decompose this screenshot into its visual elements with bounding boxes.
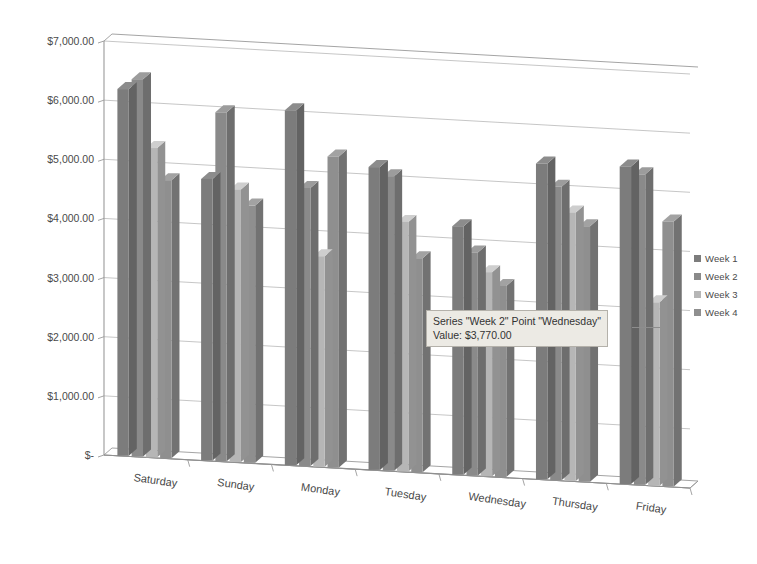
x-axis-label: Monday [300,481,341,498]
y-axis-label: $3,000.00 [47,272,94,284]
legend-swatch-week-1 [694,255,701,262]
chart-legend: Week 1 Week 2 Week 3 Week 4 [694,250,756,322]
bar-side-face [296,103,304,465]
y-axis-label: $5,000.00 [47,153,94,165]
chart-container: $-$1,000.00$2,000.00$3,000.00$4,000.00$5… [0,0,757,564]
bar-side-face [674,214,682,486]
bar-side-face [129,82,137,456]
legend-swatch-week-4 [694,309,701,316]
x-axis-tick [606,483,608,490]
legend-label-week-4: Week 4 [705,307,738,318]
x-axis-tick [523,479,525,486]
bar-friday-week-1[interactable] [620,159,639,484]
bar-side-face [157,141,165,457]
legend-label-week-1: Week 1 [705,253,738,264]
x-axis-label: Tuesday [384,485,428,503]
legend-label-week-2: Week 2 [705,271,738,282]
bar-side-face [660,295,668,485]
legend-item[interactable]: Week 2 [694,268,756,284]
bar-side-face [339,149,347,467]
bar-sunday-week-1[interactable] [201,172,220,461]
bar-side-face [631,159,639,484]
bar-side-face [394,169,402,471]
y-axis-tick [98,41,104,43]
bar-front-face [452,226,463,474]
y-axis-label: $2,000.00 [47,331,94,343]
y-axis-tick [98,396,104,398]
bar-side-face [590,219,598,481]
y-axis-label: $6,000.00 [47,94,94,106]
bar-front-face [369,167,380,470]
bar-front-face [117,89,128,456]
bar-side-face [408,215,416,472]
bar-tuesday-week-1[interactable] [369,160,388,470]
y-axis-tick [98,218,104,220]
x-axis-tick [271,464,273,471]
y-axis-tick [98,100,104,102]
bar-side-face [255,199,263,463]
bar-side-face [380,160,388,470]
wall-depth-edge [104,34,112,41]
y-axis-label: $7,000.00 [47,35,94,47]
bar-side-face [241,182,249,462]
y-axis-tick [98,337,104,339]
bar-front-face [285,110,296,465]
x-axis-label: Saturday [133,471,179,489]
bar-side-face [143,72,151,456]
x-axis-label: Thursday [551,495,599,513]
y-axis-label: $1,000.00 [47,390,94,402]
legend-item[interactable]: Week 4 [694,304,756,320]
x-axis-tick [355,469,357,476]
x-axis-label: Sunday [217,476,256,493]
bar-side-face [506,279,514,477]
bar-front-face [620,166,631,484]
y-axis-tick [98,159,104,161]
x-axis-label: Friday [635,499,667,515]
x-axis-tick [188,460,190,467]
legend-item[interactable]: Week 3 [694,286,756,302]
x-axis-tick [439,474,441,481]
datapoint-tooltip: Series "Week 2" Point "Wednesday" Value:… [426,310,608,347]
legend-swatch-week-2 [694,273,701,280]
bar-front-face [201,179,212,461]
bar-side-face [212,172,220,461]
bar-side-face [227,105,235,461]
gridline [104,41,690,74]
legend-item[interactable]: Week 1 [694,250,756,266]
x-axis-tick [690,488,692,495]
tooltip-leader-line [632,327,660,328]
bar-side-face [478,245,486,475]
bar-saturday-week-1[interactable] [117,82,136,456]
tooltip-value-line: Value: $3,770.00 [433,328,601,342]
wall-top-back-edge [112,34,698,67]
gridline [104,100,690,133]
tooltip-series-line: Series "Week 2" Point "Wednesday" [433,314,601,328]
bar-monday-week-1[interactable] [285,103,304,465]
legend-swatch-week-3 [694,291,701,298]
bar-side-face [171,173,179,458]
bar-chart-3d: $-$1,000.00$2,000.00$3,000.00$4,000.00$5… [0,0,757,564]
bar-side-face [492,265,500,476]
bar-side-face [310,181,318,466]
legend-label-week-3: Week 3 [705,289,738,300]
y-axis-label: $4,000.00 [47,212,94,224]
x-axis-label: Wednesday [468,490,527,510]
y-axis-label: $- [85,449,95,461]
y-axis-tick [98,278,104,280]
bar-side-face [325,249,333,467]
bar-side-face [423,251,431,472]
